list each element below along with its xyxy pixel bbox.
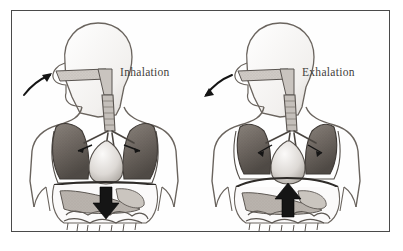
panel-exhalation xyxy=(202,11,382,233)
inhalation-figure-drawing xyxy=(20,11,200,233)
exhalation-figure-drawing xyxy=(202,11,382,233)
label-exhalation: Exhalation xyxy=(302,66,355,78)
label-inhalation: Inhalation xyxy=(120,66,170,78)
left-lung-texture xyxy=(305,124,337,174)
outward-curved-arrow-icon xyxy=(204,75,232,97)
diagram-frame xyxy=(11,10,390,232)
breathing-mechanics-diagram: Inhalation Exhalation xyxy=(0,0,403,251)
inward-curved-arrow-icon xyxy=(24,73,52,95)
panel-inhalation xyxy=(20,11,200,233)
heart xyxy=(89,141,123,184)
left-lung-texture xyxy=(123,124,157,179)
